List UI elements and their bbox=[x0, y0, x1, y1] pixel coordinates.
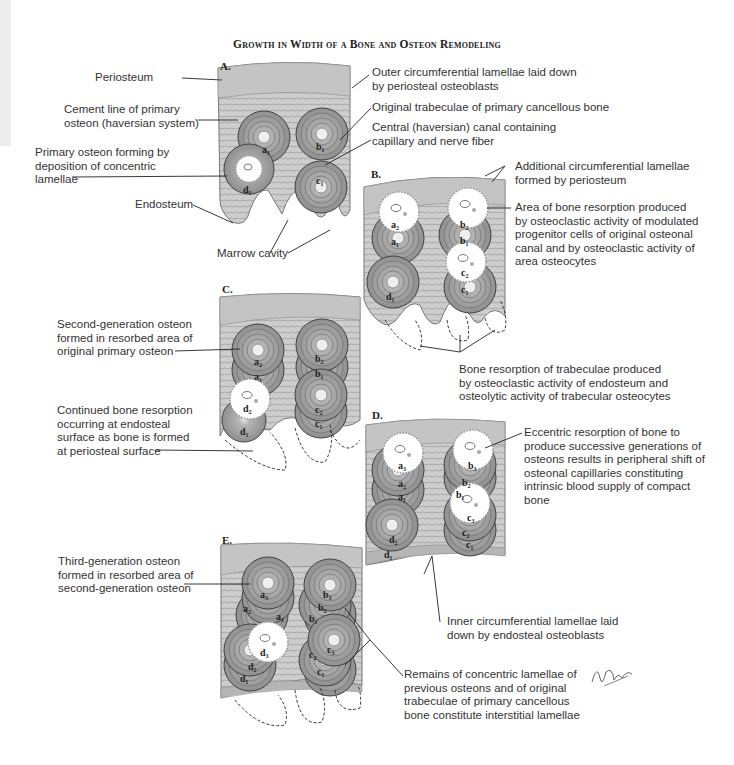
svg-text:c₃: c₃ bbox=[327, 644, 334, 655]
svg-text:b₂: b₂ bbox=[460, 219, 469, 230]
label-outer-lamellae: Outer circumferential lamellae laid down… bbox=[372, 66, 577, 93]
label-continued-resorption: Continued bone resorption occurring at e… bbox=[57, 404, 193, 458]
label-second-generation: Second-generation osteon formed in resor… bbox=[57, 318, 193, 359]
svg-text:a₂: a₂ bbox=[398, 478, 406, 489]
panel-letter-e: E. bbox=[222, 534, 232, 546]
panel-letter-b: B. bbox=[371, 168, 381, 180]
label-third-generation: Third-generation osteon formed in resorb… bbox=[58, 555, 194, 596]
svg-text:a₂: a₂ bbox=[391, 219, 399, 230]
svg-text:a₂: a₂ bbox=[243, 603, 251, 614]
svg-text:c₁: c₁ bbox=[316, 175, 323, 186]
svg-text:a₁: a₁ bbox=[262, 144, 270, 155]
label-trabeculae-resorption: Bone resorption of trabeculae produced b… bbox=[459, 363, 671, 404]
svg-text:b₂: b₂ bbox=[462, 477, 471, 488]
svg-text:a₁: a₁ bbox=[398, 491, 406, 502]
svg-text:b₁: b₁ bbox=[460, 235, 469, 246]
svg-text:c₁: c₁ bbox=[466, 539, 473, 550]
svg-text:a₁: a₁ bbox=[276, 611, 284, 622]
label-marrow-cavity: Marrow cavity bbox=[217, 247, 288, 261]
panel-c-illustration: a₂ a₁ b₂ b₁ c₂ c₁ d₂ d₁ bbox=[220, 294, 360, 471]
panel-letter-d: D. bbox=[372, 409, 383, 421]
panel-letter-a: A. bbox=[220, 60, 231, 72]
panel-letter-c: C. bbox=[222, 283, 233, 295]
label-cement-line: Cement line of primary osteon (haversian… bbox=[64, 103, 199, 130]
svg-text:b₃: b₃ bbox=[468, 460, 477, 471]
svg-text:d₂: d₂ bbox=[389, 534, 398, 545]
svg-text:a₂: a₂ bbox=[254, 356, 262, 367]
svg-text:a₃: a₃ bbox=[260, 589, 268, 600]
netter-signature bbox=[592, 670, 632, 686]
label-original-trabeculae: Original trabeculae of primary cancellou… bbox=[372, 101, 609, 115]
svg-text:c₁: c₁ bbox=[317, 666, 324, 677]
svg-text:c₁: c₁ bbox=[461, 284, 468, 295]
svg-text:a₁: a₁ bbox=[391, 236, 399, 247]
label-primary-osteon: Primary osteon forming by deposition of … bbox=[35, 146, 169, 187]
svg-text:d₁: d₁ bbox=[243, 184, 252, 195]
label-additional-lamellae: Additional circumferential lamellae form… bbox=[515, 160, 690, 187]
panel-b-illustration: a₂ a₁ b₂ b₁ c₂ c₁ d₁ bbox=[364, 177, 506, 350]
svg-text:d₁: d₁ bbox=[384, 549, 393, 560]
svg-text:d₂: d₂ bbox=[243, 403, 252, 414]
svg-text:c₁: c₁ bbox=[315, 418, 322, 429]
label-inner-lamellae: Inner circumferential lamellae laid down… bbox=[447, 615, 618, 642]
label-area-resorption: Area of bone resorption produced by oste… bbox=[515, 201, 698, 269]
svg-text:d₁: d₁ bbox=[386, 291, 395, 302]
svg-text:b₁: b₁ bbox=[456, 489, 465, 500]
svg-text:b₁: b₁ bbox=[316, 141, 325, 152]
label-remains: Remains of concentric lamellae of previo… bbox=[404, 668, 580, 722]
svg-text:b₁: b₁ bbox=[309, 613, 318, 624]
svg-text:c₃: c₃ bbox=[467, 512, 474, 523]
svg-text:c₂: c₂ bbox=[315, 404, 322, 415]
svg-text:a₃: a₃ bbox=[398, 460, 406, 471]
svg-text:b₁: b₁ bbox=[315, 368, 324, 379]
panel-d-illustration: a₃ a₂ a₁ b₃ b₂ b₁ c₃ c₂ c₁ d₂ d₁ bbox=[366, 419, 505, 565]
label-central-canal: Central (haversian) canal containing cap… bbox=[372, 121, 556, 148]
panel-e-illustration: a₃ a₂ a₁ b₃ b₂ b₁ c₃ c₂ c₁ d₃ d₂ d₁ bbox=[221, 543, 362, 726]
svg-text:b₃: b₃ bbox=[323, 589, 332, 600]
panel-a-illustration: a₁ b₁ c₁ d₁ bbox=[218, 62, 350, 223]
svg-text:d₁: d₁ bbox=[240, 426, 249, 437]
label-eccentric-resorption: Eccentric resorption of bone to produce … bbox=[524, 426, 705, 507]
svg-text:d₃: d₃ bbox=[260, 647, 269, 658]
svg-text:a₁: a₁ bbox=[254, 371, 262, 382]
svg-text:c₂: c₂ bbox=[461, 267, 468, 278]
svg-text:d₂: d₂ bbox=[248, 661, 257, 672]
svg-text:b₂: b₂ bbox=[315, 353, 324, 364]
svg-text:b₂: b₂ bbox=[318, 602, 327, 613]
svg-text:d₁: d₁ bbox=[240, 673, 249, 684]
label-endosteum: Endosteum bbox=[135, 198, 193, 212]
label-periosteum: Periosteum bbox=[95, 71, 153, 85]
svg-text:c₂: c₂ bbox=[309, 649, 316, 660]
svg-text:c₂: c₂ bbox=[462, 527, 469, 538]
